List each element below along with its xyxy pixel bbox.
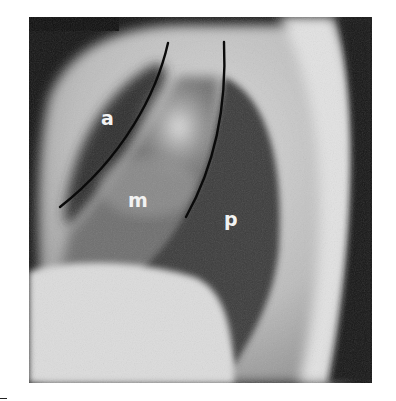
edge-mark <box>0 398 7 399</box>
label-posterior: p <box>224 210 238 229</box>
label-anterior: a <box>101 109 114 128</box>
label-middle: m <box>128 191 148 210</box>
radiograph-rendering <box>29 17 372 383</box>
radiograph-image: a m p <box>29 17 372 383</box>
